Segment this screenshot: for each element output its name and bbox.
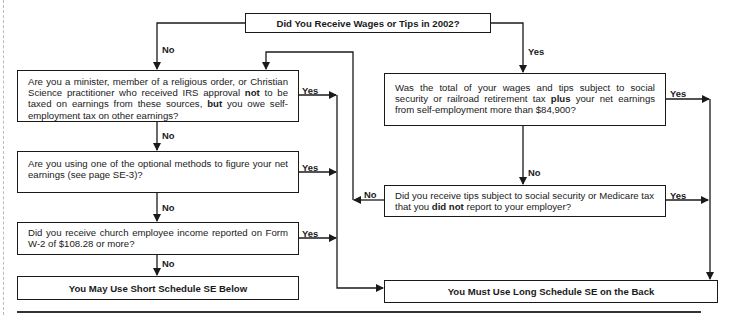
long-schedule-result-text: You Must Use Long Schedule SE on the Bac…: [385, 286, 717, 297]
optional-methods-question-text: Are you using one of the optional method…: [28, 158, 288, 180]
schedule-se-flowchart: Did You Receive Wages or Tips in 2002? A…: [0, 0, 730, 315]
short-schedule-result-box: You May Use Short Schedule SE Below: [17, 276, 299, 300]
minister-question-box: Are you a minister, member of a religiou…: [17, 70, 299, 122]
unreported-tips-emphasis-did-not: did not: [432, 201, 464, 212]
optional-methods-question-box: Are you using one of the optional method…: [17, 151, 299, 193]
no-label-church: No: [162, 258, 175, 269]
long-schedule-result-box: You Must Use Long Schedule SE on the Bac…: [384, 280, 718, 303]
minister-question-emphasis-but: but: [207, 98, 222, 109]
unreported-tips-question-text: Did you receive tips subject to social s…: [395, 190, 655, 212]
minister-question-emphasis-not: not: [245, 87, 260, 98]
wages-threshold-emphasis-plus: plus: [551, 93, 571, 104]
yes-label-wages: Yes: [670, 88, 686, 99]
yes-label-optional: Yes: [302, 162, 318, 173]
yes-label-tips: Yes: [670, 190, 686, 201]
section-divider-rule: [17, 311, 701, 313]
unreported-tips-question-box: Did you receive tips subject to social s…: [384, 185, 666, 217]
short-schedule-result-text: You May Use Short Schedule SE Below: [18, 283, 298, 294]
wages-threshold-question-box: Was the total of your wages and tips sub…: [384, 73, 666, 126]
no-label-minister: No: [162, 130, 175, 141]
wages-threshold-question-text: Was the total of your wages and tips sub…: [395, 82, 655, 116]
yes-label-church: Yes: [302, 228, 318, 239]
yes-label-minister: Yes: [302, 85, 318, 96]
start-question-box: Did You Receive Wages or Tips in 2002?: [245, 13, 491, 33]
no-label-tips: No: [364, 189, 377, 200]
start-question-text: Did You Receive Wages or Tips in 2002?: [246, 18, 490, 29]
church-income-question-box: Did you receive church employee income r…: [17, 222, 299, 255]
minister-question-text: Are you a minister, member of a religiou…: [28, 76, 288, 121]
no-label-start: No: [162, 44, 175, 55]
no-label-optional: No: [162, 202, 175, 213]
unreported-tips-question-part: report to your employer?: [464, 201, 571, 212]
no-label-wages: No: [528, 167, 541, 178]
yes-label-start: Yes: [528, 46, 544, 57]
church-income-question-text: Did you receive church employee income r…: [28, 227, 288, 249]
